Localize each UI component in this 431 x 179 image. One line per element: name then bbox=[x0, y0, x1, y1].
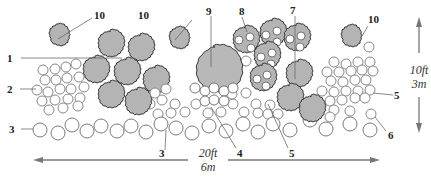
plant-group-2-rings bbox=[32, 59, 89, 115]
label-2: 2 bbox=[7, 83, 13, 95]
label-10c: 10 bbox=[368, 13, 380, 25]
label-4: 4 bbox=[237, 147, 243, 159]
width-label-m: 6m bbox=[201, 160, 216, 174]
width-dimension: 20ft 6m bbox=[33, 146, 380, 174]
height-label-ft: 10ft bbox=[410, 63, 429, 77]
height-dimension: 10ft 3m bbox=[410, 17, 429, 133]
label-3b: 3 bbox=[159, 147, 165, 159]
height-label-m: 3m bbox=[411, 77, 427, 91]
label-5a: 5 bbox=[394, 89, 400, 101]
label-7: 7 bbox=[290, 4, 296, 16]
shrub-specimens-10 bbox=[49, 23, 362, 49]
label-1: 1 bbox=[7, 52, 13, 64]
label-8: 8 bbox=[239, 5, 245, 17]
label-6: 6 bbox=[388, 129, 394, 141]
width-label-ft: 20ft bbox=[199, 146, 218, 160]
planting-plan-diagram: 1 2 3 3 4 5 5 6 7 8 9 10 10 10 20ft 6m 1… bbox=[0, 0, 431, 179]
label-9: 9 bbox=[206, 5, 212, 17]
label-10b: 10 bbox=[138, 9, 150, 21]
label-10a: 10 bbox=[94, 9, 106, 21]
label-3a: 3 bbox=[9, 123, 15, 135]
label-5b: 5 bbox=[289, 147, 295, 159]
